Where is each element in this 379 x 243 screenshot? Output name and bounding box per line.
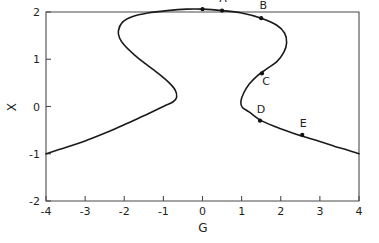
y-axis-title: X: [5, 103, 19, 111]
axis-titles: G X: [5, 103, 208, 235]
x-tick-label: 1: [238, 205, 245, 218]
data-point-marker-h: [200, 7, 204, 11]
data-point-marker-d: [258, 119, 262, 123]
data-point-label-a: A: [219, 0, 227, 5]
x-axis-title: G: [198, 221, 207, 235]
data-point-marker-b: [259, 16, 263, 20]
equilibrium-curve-path: [46, 9, 359, 154]
data-point-label-e: E: [300, 117, 307, 130]
y-tick-label: 2: [33, 6, 40, 19]
data-point-marker-e: [300, 133, 304, 137]
data-point-label-d: D: [257, 103, 265, 116]
x-tick-label: 0: [199, 205, 206, 218]
x-tick-label: 4: [356, 205, 363, 218]
y-tick-label: 1: [33, 53, 40, 66]
y-tick-label: -1: [29, 148, 40, 161]
plot-frame: [46, 12, 359, 201]
x-tick-label: 3: [316, 205, 323, 218]
data-curve: [46, 9, 359, 154]
x-tick-label: -3: [80, 205, 91, 218]
x-tick-label: -4: [41, 205, 52, 218]
data-point-markers: [200, 7, 304, 137]
data-point-label-b: B: [259, 0, 267, 12]
y-tick-label: 0: [33, 101, 40, 114]
y-tick-label: -2: [29, 195, 40, 208]
data-point-marker-a: [220, 8, 224, 12]
x-tick-label: -1: [158, 205, 169, 218]
data-point-labels: HABCDE: [198, 0, 306, 130]
chart-figure: -4-3-2-101234-2-1012 HABCDE G X: [0, 0, 379, 243]
data-point-label-h: H: [198, 0, 206, 3]
plot-border: [46, 12, 359, 201]
x-tick-label: -2: [119, 205, 130, 218]
axis-tick-labels: -4-3-2-101234-2-1012: [29, 6, 362, 218]
data-point-label-c: C: [262, 75, 270, 88]
axis-ticks: [46, 12, 359, 201]
x-tick-label: 2: [277, 205, 284, 218]
bifurcation-plot: -4-3-2-101234-2-1012 HABCDE G X: [0, 0, 379, 243]
